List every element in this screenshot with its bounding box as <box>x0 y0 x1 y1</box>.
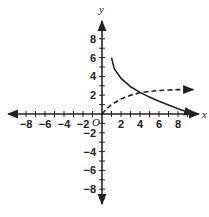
y-tick-label: −8 <box>83 183 96 195</box>
x-tick-label: −8 <box>20 118 33 130</box>
y-tick-label: 6 <box>90 52 96 64</box>
y-tick-label: −2 <box>83 127 96 139</box>
origin-label: O <box>92 116 100 128</box>
x-tick-label: 2 <box>118 118 124 130</box>
x-axis-label: x <box>201 108 207 120</box>
dashed-curve <box>102 90 193 114</box>
x-tick-label: 8 <box>175 118 181 130</box>
y-axis-label: y <box>98 3 104 15</box>
x-tick-label: −6 <box>39 118 52 130</box>
tick-labels: −8−6−4−224688642−2−4−6−8xyO <box>20 3 207 195</box>
curves <box>102 58 194 114</box>
y-tick-label: 4 <box>90 70 97 82</box>
x-tick-label: 6 <box>156 118 162 130</box>
coordinate-plane: −8−6−4−224688642−2−4−6−8xyO <box>0 0 209 217</box>
x-tick-label: −4 <box>58 118 71 130</box>
y-tick-label: 2 <box>90 89 96 101</box>
y-tick-label: −6 <box>83 164 96 176</box>
y-tick-label: 8 <box>90 33 96 45</box>
x-tick-label: 4 <box>137 118 144 130</box>
y-tick-label: −4 <box>83 146 96 158</box>
solid-curve <box>112 58 195 114</box>
